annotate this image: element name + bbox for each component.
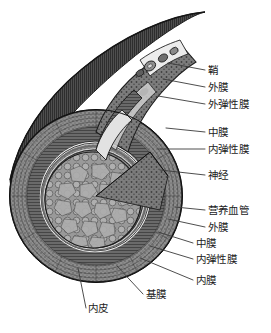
label-intima: 内膜 [196, 275, 216, 286]
label-adventitia-upper: 外膜 [208, 82, 228, 93]
leader-media-upper [166, 128, 205, 132]
leader-vasa-vasorum [175, 207, 205, 210]
label-media-lower: 中膜 [196, 238, 216, 249]
label-basement-membrane: 基膜 [146, 289, 166, 300]
leader-nerve [160, 170, 205, 175]
leader-internal-elastic-lower [150, 246, 193, 259]
label-adventitia-lower: 外膜 [208, 222, 228, 233]
label-endothelium: 内皮 [88, 303, 108, 314]
leader-sheath [168, 63, 205, 70]
leader-external-elastic [158, 96, 205, 104]
leader-lines [0, 0, 271, 333]
leader-adventitia-upper [163, 79, 205, 87]
label-nerve: 神经 [208, 170, 228, 181]
label-internal-elastic-membrane-upper: 内弹性膜 [208, 144, 249, 155]
leader-media-lower [158, 232, 193, 243]
leader-adventitia-lower [168, 219, 205, 227]
leader-endothelium [78, 268, 86, 308]
artery-cross-section-figure: 鞘 外膜 外弹性膜 中膜 内弹性膜 神经 营养血管 外膜 中膜 内弹性膜 内膜 … [0, 0, 271, 333]
label-internal-elastic-membrane-lower: 内弹性膜 [196, 254, 237, 265]
label-vasa-vasorum: 营养血管 [208, 205, 249, 216]
leader-basement-membrane [117, 266, 143, 294]
label-external-elastic-membrane: 外弹性膜 [208, 99, 249, 110]
leader-intima [140, 258, 193, 280]
label-media-upper: 中膜 [208, 127, 228, 138]
label-sheath: 鞘 [208, 65, 218, 76]
